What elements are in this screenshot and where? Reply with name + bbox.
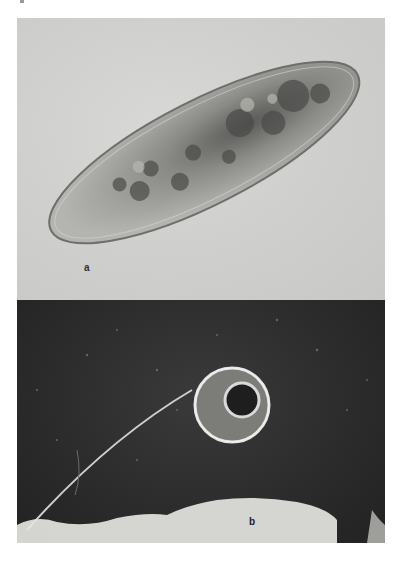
micrograph-panel-b: b bbox=[17, 300, 385, 543]
panel-label-b: b bbox=[249, 516, 255, 527]
stalk bbox=[27, 390, 192, 530]
paramecium-cell bbox=[27, 28, 381, 277]
top-crop-mark bbox=[20, 0, 380, 3]
paramecium-illustration bbox=[17, 18, 385, 300]
ciliate-body bbox=[195, 368, 269, 442]
debris-mass bbox=[17, 498, 337, 543]
micrograph-panel-a: a bbox=[17, 18, 385, 300]
stalked-ciliate-illustration bbox=[17, 300, 385, 543]
panel-label-a: a bbox=[84, 262, 90, 273]
